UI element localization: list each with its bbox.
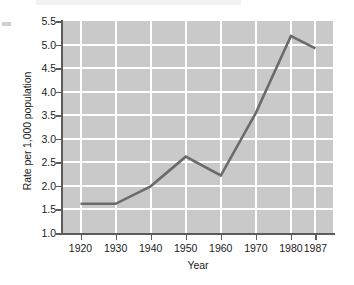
y-axis-tick-label: 5.0 [28,40,56,51]
y-axis-tick-label: 2.0 [28,181,56,192]
x-axis-title: Year [63,259,333,271]
y-axis-tick-label-group: 1.01.52.02.53.03.54.04.55.05.5 [28,0,56,285]
y-axis-tick-label: 5.5 [28,16,56,27]
y-axis-tick-mark [56,162,62,164]
x-axis-tick-mark [291,234,293,240]
y-axis-tick-label: 1.5 [28,204,56,215]
plot-area [63,21,333,233]
y-axis-tick-label: 2.5 [28,157,56,168]
x-axis-tick-label: 1987 [292,243,338,254]
y-axis-tick-mark [56,233,62,235]
x-axis-tick-mark [81,234,83,240]
y-axis-tick-mark [56,68,62,70]
x-axis-line [61,233,335,235]
y-axis-tick-mark [56,92,62,94]
x-axis-tick-mark [151,234,153,240]
y-axis-tick-mark [56,115,62,117]
y-axis-tick-mark [56,45,62,47]
y-axis-tick-label: 4.5 [28,63,56,74]
line-chart-figure: Rate per 1,000 population 1.01.52.02.53.… [0,0,354,285]
x-axis-tick-mark [256,234,258,240]
y-axis-tick-label: 3.5 [28,110,56,121]
x-axis-tick-mark [221,234,223,240]
y-axis-tick-label: 3.0 [28,134,56,145]
y-axis-tick-mark [56,139,62,141]
data-series-line [63,21,333,233]
y-axis-tick-mark [56,21,62,23]
y-axis-tick-mark [56,186,62,188]
x-axis-tick-mark [116,234,118,240]
y-axis-tick-label: 4.0 [28,87,56,98]
y-axis-tick-label: 1.0 [28,228,56,239]
y-axis-tick-mark [56,209,62,211]
x-axis-tick-mark [186,234,188,240]
x-axis-tick-mark [315,234,317,240]
